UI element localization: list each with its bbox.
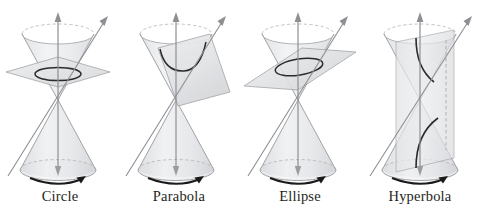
cutting-plane-tilted (158, 34, 230, 106)
panel-ellipse: Ellipse (240, 0, 360, 217)
conic-sections-figure: Circle (0, 0, 482, 217)
ellipse-diagram (240, 0, 360, 190)
caption-ellipse: Ellipse (240, 188, 360, 205)
cutting-plane-oblique (244, 48, 356, 90)
panel-circle: Circle (0, 0, 120, 217)
caption-hyperbola: Hyperbola (358, 188, 482, 205)
panel-hyperbola: Hyperbola (358, 0, 482, 217)
hyperbola-diagram (358, 0, 482, 190)
cutting-plane-vertical (396, 30, 454, 172)
circle-diagram (0, 0, 120, 190)
caption-parabola: Parabola (118, 188, 240, 205)
caption-circle: Circle (0, 188, 120, 205)
parabola-diagram (118, 0, 240, 190)
panel-parabola: Parabola (118, 0, 240, 217)
